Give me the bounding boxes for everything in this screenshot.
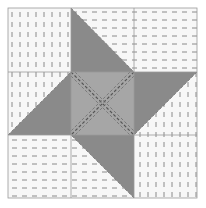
center-square [71, 72, 134, 135]
quilt-block [0, 0, 206, 208]
